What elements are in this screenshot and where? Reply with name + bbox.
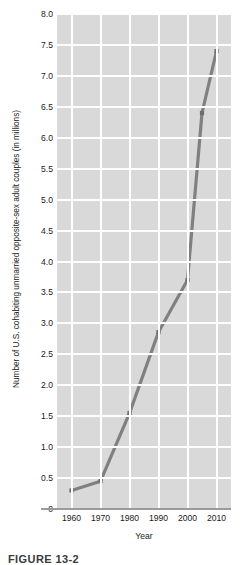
y-axis-tick-label: 0.5 — [13, 473, 53, 483]
gridline-horizontal — [57, 137, 231, 139]
y-axis-tick-label: 7.5 — [13, 40, 53, 50]
y-axis-tick-label: 5.5 — [13, 164, 53, 174]
x-axis-tick-labels: 196019701980199020002010 — [57, 513, 231, 527]
gridline-horizontal — [57, 477, 231, 479]
y-axis-tick-label: 4.0 — [13, 257, 53, 267]
y-axis-tick-label: 2.0 — [13, 380, 53, 390]
x-axis-line — [41, 508, 231, 510]
y-axis-tick-label: 3.5 — [13, 287, 53, 297]
gridline-vertical — [216, 14, 218, 509]
gridline-vertical — [100, 14, 102, 509]
gridline-horizontal — [57, 75, 231, 77]
y-axis-tick-label: 6.5 — [13, 102, 53, 112]
gridline-horizontal — [57, 322, 231, 324]
figure-container: Number of U.S. cohabiting unmarried oppo… — [0, 0, 245, 565]
gridline-horizontal — [57, 106, 231, 108]
plot-area — [57, 14, 231, 509]
gridline-horizontal — [57, 261, 231, 263]
y-axis-tick-label: 1.0 — [13, 442, 53, 452]
gridline-horizontal — [57, 446, 231, 448]
gridline-horizontal — [57, 291, 231, 293]
y-axis-tick-label: 6.0 — [13, 133, 53, 143]
gridline-vertical — [158, 14, 160, 509]
series-polyline — [72, 51, 217, 490]
gridline-horizontal — [57, 230, 231, 232]
x-axis-tick-label: 2010 — [194, 513, 240, 523]
data-point-marker — [200, 111, 204, 115]
gridline-horizontal — [57, 13, 231, 15]
gridline-vertical — [129, 14, 131, 509]
y-axis-tick-label: 5.0 — [13, 195, 53, 205]
gridline-horizontal — [57, 168, 231, 170]
gridline-vertical — [71, 14, 73, 509]
gridline-horizontal — [57, 353, 231, 355]
y-axis-tick-label: 7.0 — [13, 71, 53, 81]
figure-caption: FIGURE 13-2 — [8, 553, 79, 565]
y-axis-tick-label: 4.5 — [13, 226, 53, 236]
gridline-horizontal — [57, 44, 231, 46]
y-axis-tick-label: 8.0 — [13, 9, 53, 19]
x-axis-title: Year — [57, 531, 231, 541]
gridline-vertical — [187, 14, 189, 509]
gridline-horizontal — [57, 199, 231, 201]
gridline-horizontal — [57, 415, 231, 417]
y-axis-tick-label: 1.5 — [13, 411, 53, 421]
y-axis-tick-label: 3.0 — [13, 318, 53, 328]
gridline-horizontal — [57, 384, 231, 386]
y-axis-tick-labels: 00.51.01.52.02.53.03.54.04.55.05.56.06.5… — [10, 14, 53, 509]
y-axis-tick-label: 2.5 — [13, 349, 53, 359]
